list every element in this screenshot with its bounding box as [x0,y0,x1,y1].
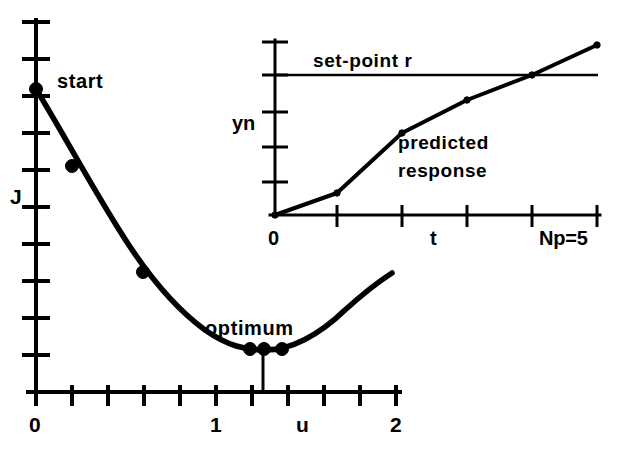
inset-y-axis-label: yn [232,113,255,133]
inset-x-axis-label: t [430,228,437,248]
predicted-response-annotation-line1: predicted [398,133,489,152]
inset-marker-5 [594,42,600,48]
main-x-axis-label: u [296,414,309,435]
inset-marker-3 [464,97,470,103]
optimum-annotation: optimum [205,318,294,338]
marker-start [30,83,43,96]
marker-iterate-2 [66,160,79,173]
figure-vector-layer [0,0,618,454]
start-annotation: start [57,71,103,91]
main-cost-curve-path [36,89,392,350]
marker-optimum-c [276,343,289,356]
main-x-tick-label-0: 0 [29,414,41,435]
marker-optimum-b [258,343,271,356]
marker-iterate-3 [137,266,150,279]
inset-x-origin-label: 0 [268,228,279,248]
setpoint-annotation: set-point r [313,51,413,70]
main-x-tick-label-2: 2 [390,414,402,435]
main-x-tick-label-1: 1 [210,414,222,435]
inset-horizon-label: Np=5 [539,228,588,248]
inset-marker-4 [529,72,535,78]
inset-marker-0 [272,212,278,218]
inset-marker-1 [334,190,340,196]
predicted-response-annotation-line2: response [398,161,487,180]
marker-optimum-a [244,343,257,356]
main-y-axis-label: J [10,186,22,207]
figure-canvas: J start optimum 0 1 2 u yn set-point r p… [0,0,618,454]
